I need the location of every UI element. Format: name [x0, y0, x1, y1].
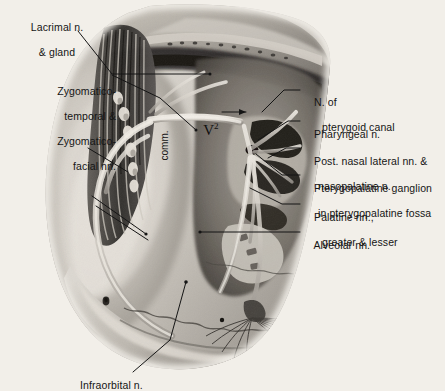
label-lacrimal-line1: Lacrimal n. — [31, 21, 83, 33]
label-zygomatic-nerves: Zygomatico- temporal & Zygomatico- facia… — [6, 72, 116, 172]
label-infraorbital-line1: Infraorbital n. — [80, 379, 143, 391]
label-lacrimal-nerve-and-gland: Lacrimal n. & gland — [6, 8, 102, 58]
label-zygomatic-line2: temporal & — [64, 110, 116, 122]
label-palatine-line1: Palatine nn., — [314, 211, 374, 223]
label-post-nasal-line1: Post. nasal lateral nn. & — [314, 155, 427, 167]
label-infraorbital-nerve: Infraorbital n. — [74, 366, 143, 391]
label-alveolar-line1: Alveolar nn. — [313, 239, 370, 251]
label-v2-superscript: 2 — [214, 121, 219, 131]
label-pterygoid-canal-line1: N. of — [314, 96, 337, 108]
label-v2-letter: V — [203, 122, 214, 138]
label-zygomatic-line4: facial nn. — [73, 160, 116, 172]
label-communicating-branch: comm. — [148, 130, 170, 166]
label-comm-text: comm. — [159, 130, 170, 160]
label-zygomatic-line3: Zygomatico- — [57, 135, 116, 147]
label-pharyngeal-line1: Pharyngeal n. — [314, 128, 380, 140]
label-ganglion-line1: Pterygopalatine ganglion — [314, 182, 432, 194]
label-alveolar-nerves: Alveolar nn. — [308, 226, 370, 251]
label-zygomatic-line1: Zygomatico- — [57, 85, 116, 97]
label-pharyngeal-nerve: Pharyngeal n. — [308, 115, 380, 140]
label-maxillary-nerve-v2: V2 — [196, 104, 219, 139]
label-lacrimal-line2: & gland — [39, 46, 75, 58]
